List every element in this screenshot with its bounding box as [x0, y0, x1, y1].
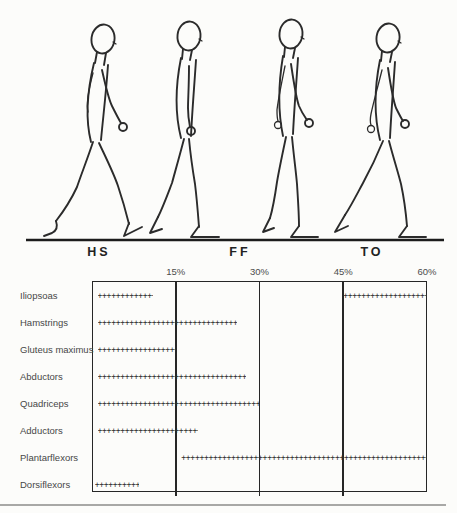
phase-label-ff: FF	[229, 245, 250, 259]
row-label: Quadriceps	[20, 398, 69, 409]
figure-near-arm	[188, 66, 190, 127]
gridline-45	[342, 281, 344, 496]
figure-back-foot	[335, 215, 348, 232]
figure-front-foot	[191, 226, 219, 237]
figure-fist	[305, 119, 313, 127]
activity-burst: +++++++++++++++++++++++++++++++++++++	[98, 399, 260, 409]
gridline-15	[175, 281, 177, 496]
x-tick-label-60: 60%	[417, 266, 436, 277]
gait-cycle-figure: HS FF TO 15%30%45%60%Iliopsoas++++++++++…	[0, 0, 457, 513]
figure-near-arm	[388, 68, 403, 121]
figure-foot-flat	[150, 20, 219, 237]
row-label: Hamstrings	[20, 317, 68, 328]
figure-front-leg	[99, 143, 129, 224]
figure-fist	[119, 123, 127, 131]
figure-back-leg	[158, 139, 184, 217]
phase-label-to: TO	[360, 245, 383, 259]
figure-front-foot	[399, 226, 426, 237]
row-label: Plantarflexors	[20, 452, 78, 463]
figure-back-leg	[270, 137, 286, 218]
activity-burst: ++++++++++++++++++++++++++++++++++	[98, 372, 246, 382]
activity-burst: +++++++++++	[95, 480, 140, 490]
row-label: Iliopsoas	[20, 290, 58, 301]
figure-back-leg	[345, 141, 383, 215]
activity-burst: ++++++++++++++++++++++++	[98, 426, 199, 436]
figure-front-leg	[389, 141, 407, 226]
figure-front-foot	[124, 223, 142, 236]
x-tick-label-30: 30%	[250, 266, 269, 277]
figure-mid-stance	[263, 18, 318, 237]
activity-burst: ++++++++++++++	[98, 291, 154, 301]
activity-burst: ++++++++++++++++++++	[343, 291, 427, 301]
figure-torso-front	[191, 60, 196, 136]
gridline-30	[259, 281, 261, 496]
figure-back-foot	[263, 218, 274, 232]
figure-torso-back	[376, 60, 381, 140]
figure-torso-back	[177, 58, 182, 138]
x-tick-label-15: 15%	[166, 266, 185, 277]
row-label: Adductors	[20, 425, 63, 436]
bottom-divider-line	[0, 504, 446, 506]
x-tick-label-45: 45%	[334, 266, 353, 277]
phase-label-hs: HS	[87, 245, 110, 259]
figure-back-leg	[56, 142, 93, 221]
figure-fist	[401, 120, 409, 128]
figure-torso-front	[101, 65, 108, 140]
activity-burst: +++++++++++++++++++++++++++++++++	[98, 318, 238, 328]
row-label: Abductors	[20, 371, 63, 382]
figure-front-leg	[189, 139, 199, 227]
figure-head	[90, 23, 117, 55]
activity-burst: +++++++++++++++++++	[98, 345, 176, 355]
figure-back-foot	[150, 217, 162, 233]
row-label: Gluteus maximus	[20, 344, 93, 355]
figure-head	[278, 18, 304, 49]
figure-front-foot	[291, 226, 318, 237]
figure-front-leg	[292, 137, 299, 226]
figure-far-fist	[368, 126, 375, 133]
walking-figures-illustration	[0, 0, 457, 262]
figure-head	[176, 20, 202, 51]
figure-heel-strike	[44, 23, 142, 236]
figure-head	[375, 22, 402, 54]
figure-back-foot	[44, 221, 57, 236]
activity-burst: ++++++++++++++++++++++++++++++++++++++++…	[181, 453, 427, 463]
row-label: Dorsiflexors	[20, 479, 70, 490]
figure-toe-off	[335, 22, 426, 237]
